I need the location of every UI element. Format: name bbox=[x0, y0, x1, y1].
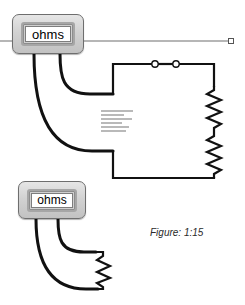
placeholder-text-line bbox=[101, 126, 129, 128]
top-meter-lead-right bbox=[60, 54, 113, 94]
ohmmeter-bottom-screen: ohms bbox=[31, 193, 73, 208]
resistor-right-lower-icon bbox=[207, 132, 221, 178]
switch-terminal-right-icon[interactable] bbox=[173, 61, 179, 67]
resistor-bottom-probe-icon bbox=[96, 252, 110, 289]
placeholder-text-line bbox=[101, 122, 122, 124]
ohmmeter-top[interactable]: ohms bbox=[12, 14, 84, 54]
ohmmeter-top-label: ohms bbox=[32, 28, 64, 41]
placeholder-text-line bbox=[101, 114, 124, 116]
selection-handle[interactable] bbox=[228, 38, 234, 44]
top-meter-lead-left bbox=[34, 54, 113, 151]
placeholder-text-line bbox=[101, 110, 133, 112]
ohmmeter-top-bezel: ohms bbox=[21, 22, 75, 46]
circuit-wire-bottom bbox=[113, 151, 214, 178]
ohmmeter-bottom[interactable]: ohms bbox=[18, 181, 86, 219]
circuit-wire-top-left bbox=[113, 64, 152, 94]
placeholder-text-line bbox=[101, 130, 126, 132]
switch-terminal-left-icon[interactable] bbox=[152, 61, 158, 67]
ohmmeter-bottom-bezel: ohms bbox=[27, 189, 77, 212]
ohmmeter-bottom-label: ohms bbox=[37, 194, 66, 206]
resistor-right-upper-icon bbox=[207, 86, 221, 132]
bottom-meter-lead-left bbox=[36, 219, 98, 289]
ohmmeter-top-screen: ohms bbox=[25, 26, 71, 42]
placeholder-text-line bbox=[101, 118, 132, 120]
bottom-meter-lead-right bbox=[58, 219, 96, 252]
placeholder-text-block bbox=[101, 110, 133, 136]
figure-canvas: ohms ohms Figure: 1:15 bbox=[0, 0, 245, 305]
figure-caption: Figure: 1:15 bbox=[150, 227, 203, 238]
circuit-wire-top-right bbox=[178, 64, 214, 86]
